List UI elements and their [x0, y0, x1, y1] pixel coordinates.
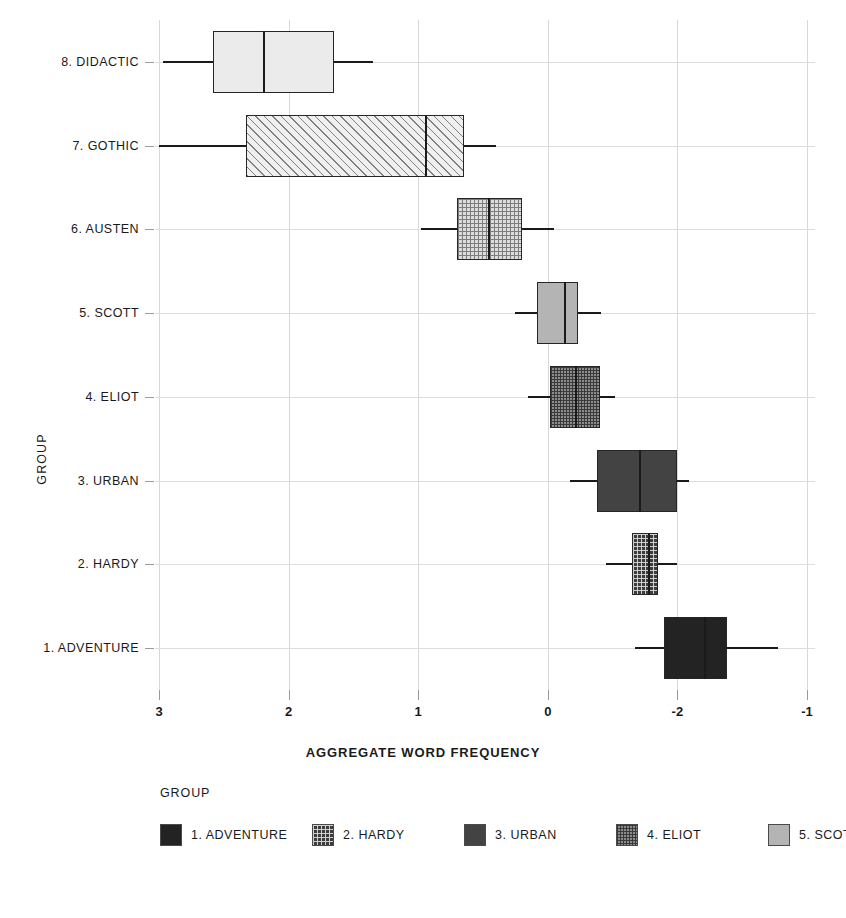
box-iqr	[632, 533, 658, 595]
whisker-upper	[464, 145, 496, 147]
y-axis-tick-label: 7. GOTHIC	[72, 139, 139, 153]
y-axis-tick-mark	[145, 62, 154, 63]
whisker-lower	[515, 312, 537, 314]
y-axis-tick-mark	[145, 397, 154, 398]
legend-swatch-icon	[768, 824, 790, 846]
gridline-vertical	[159, 20, 160, 690]
whisker-upper	[578, 312, 601, 314]
legend-item-label: 1. ADVENTURE	[191, 828, 287, 842]
whisker-upper	[658, 563, 677, 565]
whisker-lower	[606, 563, 632, 565]
legend-item-label: 5. SCOTT	[799, 828, 846, 842]
whisker-lower	[570, 480, 597, 482]
y-axis-tick-label: 2. HARDY	[78, 557, 139, 571]
gridline-vertical	[548, 20, 549, 690]
x-axis-tick-mark	[677, 690, 678, 700]
x-axis-title: AGGREGATE WORD FREQUENCY	[0, 745, 846, 760]
x-axis-tick-label: -2	[672, 704, 684, 719]
median-line	[648, 533, 650, 595]
legend: GROUP 1. ADVENTURE2. HARDY3. URBAN4. ELI…	[160, 786, 780, 857]
y-axis-tick-mark	[145, 146, 154, 147]
whisker-upper	[334, 61, 373, 63]
y-axis-tick-mark	[145, 313, 154, 314]
whisker-lower	[528, 396, 550, 398]
y-axis-tick-label: 5. SCOTT	[79, 306, 139, 320]
whisker-upper	[600, 396, 616, 398]
whisker-upper	[727, 647, 779, 649]
x-axis-tick-label: 2	[285, 704, 292, 719]
y-axis-tick-label: 8. DIDACTIC	[61, 55, 139, 69]
x-axis-tick-mark	[289, 690, 290, 700]
y-axis-tick-mark	[145, 229, 154, 230]
boxplot-chart: GROUP 8. DIDACTIC7. GOTHIC6. AUSTEN5. SC…	[0, 0, 846, 918]
legend-item[interactable]: 3. URBAN	[464, 824, 616, 846]
legend-item[interactable]: 1. ADVENTURE	[160, 824, 312, 846]
legend-swatch-icon	[160, 824, 182, 846]
y-axis-tick-label: 4. ELIOT	[85, 390, 139, 404]
legend-item[interactable]: 5. SCOTT	[768, 824, 846, 846]
legend-item-label: 4. ELIOT	[647, 828, 701, 842]
legend-swatch-icon	[312, 824, 334, 846]
whisker-upper	[677, 480, 689, 482]
legend-item[interactable]: 2. HARDY	[312, 824, 464, 846]
x-axis-tick-mark	[807, 690, 808, 700]
gridline-horizontal	[155, 564, 815, 565]
x-axis-tick-label: -1	[801, 704, 813, 719]
x-axis-tick-label: 0	[544, 704, 551, 719]
whisker-lower	[163, 61, 214, 63]
median-line	[488, 198, 490, 260]
box-iqr	[537, 282, 577, 344]
median-line	[704, 617, 706, 679]
box-iqr	[213, 31, 334, 93]
legend-swatch-icon	[616, 824, 638, 846]
gridline-vertical	[677, 20, 678, 690]
whisker-lower	[159, 145, 246, 147]
x-axis-tick-label: 1	[415, 704, 422, 719]
x-axis-tick-mark	[159, 690, 160, 700]
whisker-lower	[421, 228, 457, 230]
x-axis-tick-mark	[548, 690, 549, 700]
median-line	[263, 31, 265, 93]
plot-area	[155, 20, 815, 690]
legend-item-label: 3. URBAN	[495, 828, 557, 842]
gridline-horizontal	[155, 481, 815, 482]
legend-items: 1. ADVENTURE2. HARDY3. URBAN4. ELIOT5. S…	[160, 812, 780, 857]
gridline-horizontal	[155, 397, 815, 398]
legend-title: GROUP	[160, 786, 780, 800]
x-axis-tick-label: 3	[155, 704, 162, 719]
y-axis-tick-label: 6. AUSTEN	[71, 222, 139, 236]
y-axis-tick-mark	[145, 648, 154, 649]
box-iqr	[597, 450, 677, 512]
gridline-vertical	[807, 20, 808, 690]
box-iqr	[664, 617, 726, 679]
y-axis-tick-label: 1. ADVENTURE	[43, 641, 139, 655]
legend-item-label: 2. HARDY	[343, 828, 405, 842]
whisker-upper	[522, 228, 554, 230]
median-line	[575, 366, 577, 428]
legend-item[interactable]: 4. ELIOT	[616, 824, 768, 846]
gridline-horizontal	[155, 313, 815, 314]
y-axis-tick-mark	[145, 564, 154, 565]
y-axis-title: GROUP	[35, 433, 49, 484]
box-iqr	[246, 115, 464, 177]
x-axis-tick-mark	[418, 690, 419, 700]
median-line	[425, 115, 427, 177]
y-axis-tick-label: 3. URBAN	[78, 474, 139, 488]
median-line	[564, 282, 566, 344]
y-axis-tick-mark	[145, 481, 154, 482]
median-line	[639, 450, 641, 512]
whisker-lower	[635, 647, 665, 649]
legend-swatch-icon	[464, 824, 486, 846]
